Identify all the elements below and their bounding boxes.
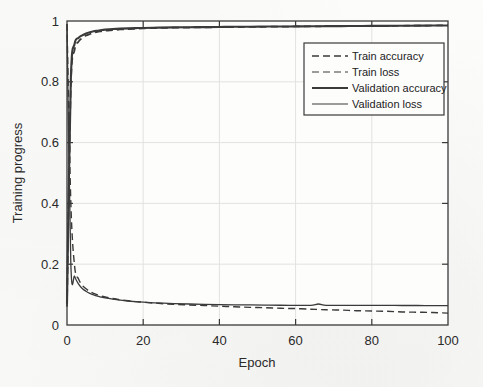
y-tick-label: 0 [52, 318, 59, 333]
legend-label: Train accuracy [352, 50, 424, 62]
y-tick-label: 1 [52, 14, 59, 29]
x-axis-label: Epoch [239, 355, 276, 370]
y-tick-label: 0.6 [41, 135, 59, 150]
y-axis-label: Training progress [10, 122, 25, 223]
y-tick-label: 0.8 [41, 74, 59, 89]
x-tick-label: 20 [136, 333, 150, 348]
x-tick-label: 80 [365, 333, 379, 348]
x-tick-label: 100 [437, 333, 459, 348]
y-tick-label: 0.4 [41, 196, 59, 211]
x-tick-label: 40 [212, 333, 226, 348]
legend-label: Validation loss [352, 98, 423, 110]
y-tick-label: 0.2 [41, 257, 59, 272]
x-tick-label: 0 [63, 333, 70, 348]
x-tick-label: 60 [288, 333, 302, 348]
chart-legend: Train accuracyTrain lossValidation accur… [304, 43, 447, 115]
legend-label: Train loss [352, 66, 400, 78]
legend-label: Validation accuracy [352, 82, 447, 94]
chart-page: 02040608010000.20.40.60.81 Epoch Trainin… [0, 0, 483, 387]
training-progress-chart: 02040608010000.20.40.60.81 Epoch Trainin… [0, 0, 483, 387]
